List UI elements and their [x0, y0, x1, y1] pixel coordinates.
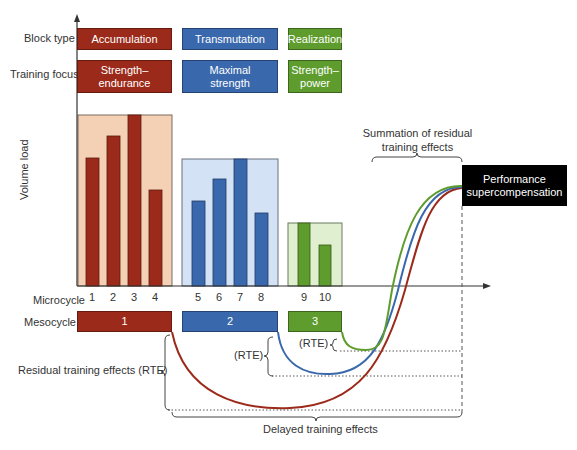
microcycle-tick-5: 5	[191, 291, 205, 303]
microcycle-tick-9: 9	[297, 291, 311, 303]
performance-supercompensation-box: Performance supercompensation	[462, 165, 567, 206]
bar-microcycle-4	[149, 190, 162, 286]
rte-realization-brace	[330, 339, 337, 351]
bar-microcycle-3	[128, 115, 141, 286]
focus-line-1: Strength–	[101, 64, 149, 77]
bar-microcycle-8	[255, 213, 268, 286]
block-type-transmutation: Transmutation	[182, 28, 278, 50]
delayed-effects-brace	[172, 412, 462, 421]
microcycle-tick-3: 3	[127, 291, 141, 303]
focus-line-1: Strength–	[291, 64, 339, 77]
summation-label: Summation of residual training effects	[355, 126, 480, 154]
rte-main-label: Residual training effects (RTE)	[18, 364, 167, 376]
y-axis-label-volume-load: Volume load	[18, 139, 30, 200]
bar-microcycle-1	[86, 158, 99, 286]
rte-realization-label: (RTE)	[299, 337, 328, 349]
summation-brace	[372, 153, 462, 162]
y-axis-arrow-icon	[74, 14, 80, 22]
summation-line-1: Summation of residual	[355, 126, 480, 140]
bar-microcycle-5	[192, 201, 205, 286]
microcycle-tick-6: 6	[212, 291, 226, 303]
mesocycle-2: 2	[182, 311, 278, 332]
microcycle-tick-7: 7	[233, 291, 247, 303]
mesocycle-1: 1	[77, 311, 172, 332]
focus-line-2: strength	[210, 77, 250, 90]
row-label-training-focus: Training focus	[10, 68, 79, 80]
rte-transmutation-label: (RTE)	[234, 349, 263, 361]
bar-microcycle-9	[298, 223, 310, 286]
x-axis-arrow-icon	[483, 283, 491, 289]
training-focus-realization: Strength– power	[288, 60, 342, 93]
bar-microcycle-7	[234, 159, 247, 286]
performance-line-2: supercompensation	[466, 186, 562, 199]
bar-microcycle-2	[107, 136, 120, 286]
block-type-realization: Realization	[288, 28, 342, 50]
microcycle-tick-10: 10	[318, 291, 332, 303]
focus-line-1: Maximal	[210, 64, 251, 77]
delayed-effects-label: Delayed training effects	[263, 423, 378, 435]
row-label-block-type: Block type	[24, 32, 75, 44]
performance-line-1: Performance	[483, 173, 546, 186]
summation-line-2: training effects	[355, 140, 480, 154]
microcycle-tick-1: 1	[85, 291, 99, 303]
bar-microcycle-10	[319, 245, 331, 286]
block-type-accumulation: Accumulation	[77, 28, 172, 50]
focus-line-2: endurance	[99, 77, 151, 90]
bar-microcycle-6	[213, 179, 226, 286]
mesocycle-3: 3	[288, 311, 342, 332]
rte-transmutation-brace	[264, 337, 273, 376]
microcycle-tick-2: 2	[106, 291, 120, 303]
row-label-mesocycle: Mesocycle	[24, 316, 76, 328]
focus-line-2: power	[300, 77, 330, 90]
microcycle-tick-8: 8	[254, 291, 268, 303]
realization-volume-bg	[288, 223, 342, 286]
row-label-microcycle: Microcycle	[33, 294, 85, 306]
rte-curve-realization	[342, 186, 462, 350]
training-focus-transmutation: Maximal strength	[182, 60, 278, 93]
training-focus-accumulation: Strength– endurance	[77, 60, 172, 93]
microcycle-tick-4: 4	[148, 291, 162, 303]
